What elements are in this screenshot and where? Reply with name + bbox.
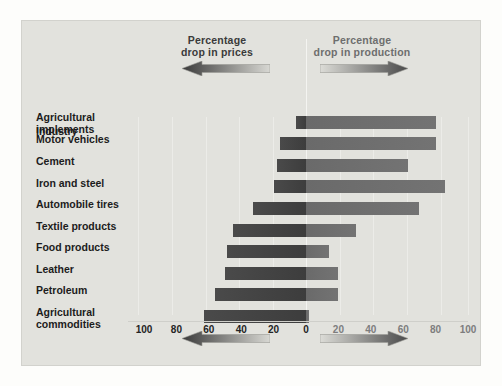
bar-price-drop xyxy=(253,202,306,215)
axis-tick-left-100: 100 xyxy=(131,324,157,335)
bar-production-drop xyxy=(306,224,356,237)
legend-prices-title: Percentage drop in prices xyxy=(157,34,277,58)
axis-rule xyxy=(128,321,468,322)
row-label: Automobile tires xyxy=(36,199,119,211)
gridline-minus-60 xyxy=(206,117,207,315)
bar-production-drop xyxy=(306,180,445,193)
row-label: Motor vehicles xyxy=(36,134,110,146)
bar-production-drop xyxy=(306,245,329,258)
gridline-minus-40 xyxy=(239,117,240,315)
axis-tick-right-100: 100 xyxy=(455,324,481,335)
bar-production-drop xyxy=(306,267,338,280)
arrow-right-gradient-icon xyxy=(320,61,408,76)
gridline-plus-100 xyxy=(468,117,469,315)
gridline-minus-100 xyxy=(138,117,139,315)
bar-price-drop xyxy=(233,224,306,237)
row-label: Food products xyxy=(36,242,110,254)
bar-production-drop xyxy=(306,202,419,215)
legend-production-title: Percentage drop in production xyxy=(292,34,432,58)
row-label: Agricultural implements xyxy=(36,112,95,135)
legend-prices-line1: Percentage xyxy=(157,34,277,46)
bar-price-drop xyxy=(280,137,306,150)
row-label: Leather xyxy=(36,264,74,276)
bar-price-drop xyxy=(215,288,306,301)
bar-price-drop xyxy=(274,180,306,193)
gridline-minus-20 xyxy=(273,117,274,315)
bar-production-drop xyxy=(306,288,338,301)
axis-tick-zero: 0 xyxy=(293,324,319,335)
row-label: Iron and steel xyxy=(36,178,104,190)
bar-production-drop xyxy=(306,116,436,129)
row-label: Petroleum xyxy=(36,285,87,297)
axis-tick-right-80: 80 xyxy=(423,324,449,335)
chart-frame: Percentage drop in prices Percentage dro… xyxy=(22,21,480,365)
legend-production-line1: Percentage xyxy=(292,34,432,46)
legend-production-line2: drop in production xyxy=(292,46,432,58)
legend-prices-line2: drop in prices xyxy=(157,46,277,58)
gridline-plus-80 xyxy=(441,117,442,315)
row-label: Cement xyxy=(36,156,75,168)
bar-price-drop xyxy=(227,245,306,258)
row-label: Textile products xyxy=(36,221,116,233)
footer-arrow-left-gradient-icon xyxy=(182,331,270,346)
bar-price-drop xyxy=(277,159,306,172)
footer-arrow-right-gradient-icon xyxy=(320,331,408,346)
plot-area: Industry Agricultural implementsMotor ve… xyxy=(22,83,480,315)
bar-price-drop xyxy=(296,116,306,129)
gridline-minus-80 xyxy=(172,117,173,315)
bar-price-drop xyxy=(225,267,306,280)
bar-production-drop xyxy=(306,159,408,172)
arrow-left-gradient-icon xyxy=(182,61,270,76)
bar-production-drop xyxy=(306,137,436,150)
